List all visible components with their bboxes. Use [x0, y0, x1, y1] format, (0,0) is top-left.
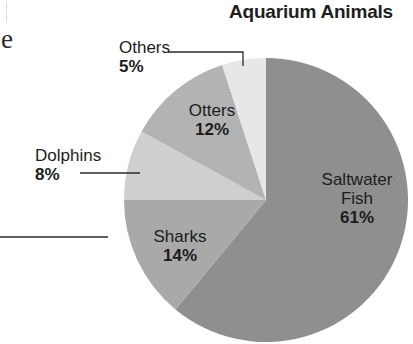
label-others: Others 5% — [119, 38, 170, 76]
label-otters-name: Otters — [176, 101, 248, 120]
label-saltwater-fish: Saltwater Fish 61% — [312, 170, 402, 227]
label-dolphins-name: Dolphins — [35, 146, 101, 165]
label-others-pct: 5% — [119, 57, 170, 76]
label-sharks-pct: 14% — [145, 246, 215, 265]
label-otters-pct: 12% — [176, 120, 248, 139]
label-saltwater-name: Saltwater — [312, 170, 402, 189]
label-otters: Otters 12% — [176, 101, 248, 139]
label-saltwater-name2: Fish — [312, 189, 402, 208]
label-sharks: Sharks 14% — [145, 227, 215, 265]
label-dolphins: Dolphins 8% — [35, 146, 101, 184]
label-dolphins-pct: 8% — [35, 165, 101, 184]
label-sharks-name: Sharks — [145, 227, 215, 246]
label-saltwater-pct: 61% — [312, 208, 402, 227]
label-others-name: Others — [119, 38, 170, 57]
chart-canvas: e Aquarium Animals Others 5% Otters 12% … — [0, 0, 413, 344]
